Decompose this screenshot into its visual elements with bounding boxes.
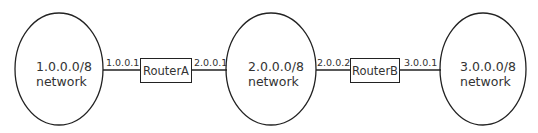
network-1-address: 1.0.0.0/8 — [36, 59, 92, 74]
router-b-left-ip: 2.0.0.2 — [317, 57, 350, 68]
network-2-caption: network — [248, 74, 304, 89]
router-b-right-ip: 3.0.0.1 — [404, 57, 437, 68]
network-3-address: 3.0.0.0/8 — [460, 59, 516, 74]
router-a-left-ip: 1.0.0.1 — [106, 57, 139, 68]
network-2-address: 2.0.0.0/8 — [248, 59, 304, 74]
network-1-caption: network — [36, 74, 92, 89]
network-3-caption: network — [460, 74, 516, 89]
router-b-box: RouterB — [350, 58, 400, 83]
router-a-right-ip: 2.0.0.1 — [194, 57, 227, 68]
network-3-label: 3.0.0.0/8 network — [460, 59, 516, 89]
network-2-label: 2.0.0.0/8 network — [248, 59, 304, 89]
router-a-box: RouterA — [140, 58, 192, 83]
network-1-label: 1.0.0.0/8 network — [36, 59, 92, 89]
